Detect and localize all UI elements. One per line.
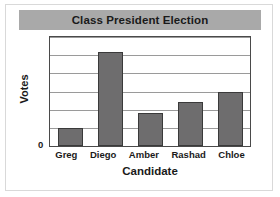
y-axis-title: Votes (18, 59, 30, 119)
x-tick-label-amber: Amber (129, 149, 159, 160)
bar-greg (58, 128, 83, 146)
chart-title-band: Class President Election (19, 10, 261, 30)
x-axis-title: Candidate (49, 165, 251, 177)
x-axis-tick-labels: GregDiegoAmberRashadChloe (49, 149, 251, 160)
y-axis-zero-tick-label: 0 (38, 139, 43, 150)
bar-chloe (218, 92, 243, 147)
bar-diego (98, 52, 123, 146)
bar-amber (138, 113, 163, 146)
plot-area (49, 36, 251, 147)
bar-rashad (178, 102, 203, 147)
x-tick-label-diego: Diego (90, 149, 116, 160)
bars-layer (50, 37, 250, 146)
x-tick-label-rashad: Rashad (171, 149, 205, 160)
chart-figure-frame: Class President Election 0 Votes GregDie… (5, 4, 273, 191)
x-tick-label-greg: Greg (55, 149, 77, 160)
x-tick-label-chloe: Chloe (218, 149, 244, 160)
chart-title: Class President Election (72, 14, 209, 26)
